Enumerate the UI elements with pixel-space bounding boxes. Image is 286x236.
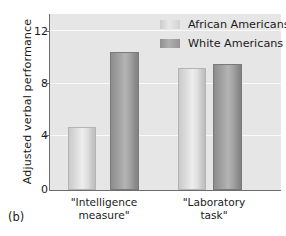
legend-entry-african-americans: African Americans (160, 16, 286, 32)
legend: African Americans White Americans (160, 16, 286, 54)
bar-white-americans-intelligence-measure (110, 52, 139, 190)
legend-label-african-americans: African Americans (188, 18, 286, 31)
panel-label: (b) (8, 210, 24, 224)
y-tick-label-0: 0 (18, 183, 48, 196)
legend-entry-white-americans: White Americans (160, 35, 286, 51)
legend-swatch-icon-african-americans (160, 20, 180, 29)
x-category-label-intelligence-measure: "Intelligence measure" (62, 196, 146, 221)
legend-swatch-icon-white-americans (160, 39, 180, 48)
bar-african-americans-laboratory-task (178, 68, 206, 190)
x-category-label-laboratory-task: "Laboratory task" (172, 196, 256, 221)
gridline-8 (50, 83, 281, 84)
legend-label-white-americans: White Americans (188, 37, 283, 50)
bar-african-americans-intelligence-measure (68, 127, 96, 190)
bar-white-americans-laboratory-task (213, 64, 242, 190)
figure: Adjusted verbal performance 12 8 4 0 Afr… (0, 0, 286, 236)
